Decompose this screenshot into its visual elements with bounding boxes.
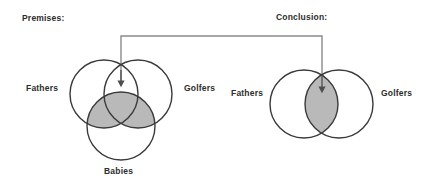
premises-heading: Premises: [22,13,64,23]
premises-arrow-indicator [117,70,124,87]
premises-venn-group [70,60,172,160]
premises-label-babies: Babies [104,166,133,176]
premises-label-fathers: Fathers [26,83,58,93]
premises-label-golfers: Golfers [184,83,215,93]
conclusion-venn-group [270,70,373,138]
conclusion-heading: Conclusion: [276,12,327,22]
conclusion-label-fathers: Fathers [231,88,263,98]
syllogism-venn-figure: Premises: Conclusion: Fathers Golfers Ba… [0,0,433,189]
conclusion-label-golfers: Golfers [381,88,412,98]
venn-diagram-canvas [0,0,433,189]
